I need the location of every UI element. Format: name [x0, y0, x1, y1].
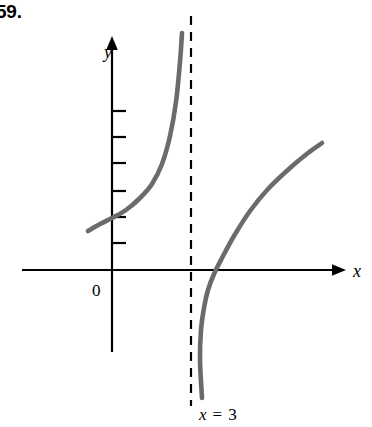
- x-axis-label: x: [352, 261, 361, 281]
- asymptote-equation-label: x=3: [198, 405, 237, 424]
- asymptote-equation-operator: =: [213, 405, 223, 424]
- graph-canvas: y x 0 x=3: [0, 0, 372, 427]
- figure-container: 59. y x 0 x=3: [0, 0, 372, 427]
- curve-left-branch: [88, 33, 182, 231]
- y-axis-label: y: [102, 42, 112, 62]
- origin-label: 0: [92, 281, 101, 300]
- asymptote-equation-value: 3: [228, 405, 237, 424]
- y-axis-ticks: [112, 111, 126, 243]
- asymptote-equation-variable: x: [198, 405, 207, 424]
- x-axis-arrow-icon: [332, 264, 346, 276]
